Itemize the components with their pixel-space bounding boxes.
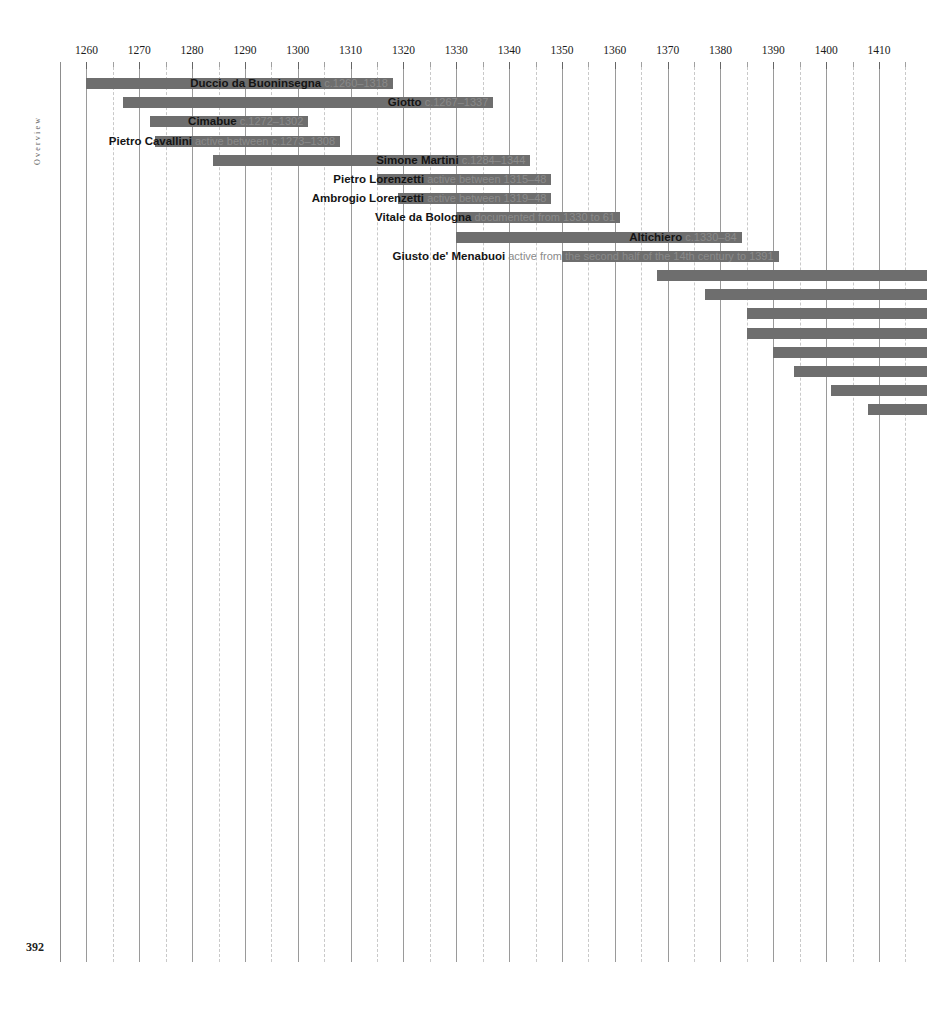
- timeline-bar-label: Duccio da Buoninsegna c.1260–1318: [190, 76, 393, 91]
- timeline-bar-row[interactable]: Pietro Lorenzetti active between 1315–48: [60, 172, 916, 188]
- artist-dates: documented from 1330 to 61: [471, 211, 615, 223]
- artist-dates: c.1330–84: [682, 231, 736, 243]
- artist-dates: active between 1315–48: [424, 173, 546, 185]
- timeline-bar[interactable]: [747, 308, 927, 319]
- timeline-bar-row[interactable]: [60, 268, 916, 284]
- artist-name: Altichiero: [629, 231, 682, 243]
- timeline-bar-row[interactable]: [60, 326, 916, 342]
- timeline-bar-row[interactable]: [60, 402, 916, 418]
- timeline-bar[interactable]: [657, 270, 926, 281]
- artist-name: Vitale da Bologna: [375, 211, 471, 223]
- artist-name: Simone Martini: [376, 154, 458, 166]
- timeline-bar-label: Simone Martini c.1284–1344: [376, 153, 530, 168]
- artist-name: Pietro Lorenzetti: [333, 173, 424, 185]
- artist-dates: c.1267–1337: [422, 96, 489, 108]
- timeline-bar-row[interactable]: [60, 364, 916, 380]
- timeline-bar-label: Vitale da Bologna documented from 1330 t…: [375, 210, 620, 225]
- timeline-bar-row[interactable]: Pietro Cavallini active between c.1273–1…: [60, 134, 916, 150]
- artist-dates: c.1284–1344: [459, 154, 526, 166]
- artist-dates: c.1272–1302: [237, 115, 304, 127]
- timeline-bar-row[interactable]: Duccio da Buoninsegna c.1260–1318: [60, 76, 916, 92]
- timeline-bar-row[interactable]: Altichiero c.1330–84: [60, 230, 916, 246]
- timeline-bar-row[interactable]: [60, 306, 916, 322]
- artist-name: Cimabue: [188, 115, 237, 127]
- timeline-bar-label: Pietro Lorenzetti active between 1315–48: [333, 172, 551, 187]
- timeline-bar-label: Giusto de' Menabuoi active from the seco…: [393, 249, 779, 264]
- timeline-bar[interactable]: [868, 404, 926, 415]
- timeline-bar[interactable]: [747, 328, 927, 339]
- timeline-bar-label: Giotto c.1267–1337: [388, 95, 494, 110]
- timeline-bar-row[interactable]: Ambrogio Lorenzetti active between 1319–…: [60, 191, 916, 207]
- timeline-bar-row[interactable]: Vitale da Bologna documented from 1330 t…: [60, 210, 916, 226]
- artist-dates: active between c.1273–1308: [192, 135, 335, 147]
- section-label: Overview: [33, 45, 47, 165]
- artist-dates: active from the second half of the 14th …: [505, 250, 773, 262]
- artist-name: Ambrogio Lorenzetti: [312, 192, 424, 204]
- timeline-bar-row[interactable]: [60, 287, 916, 303]
- artist-name: Giotto: [388, 96, 422, 108]
- timeline-bar-label: Altichiero c.1330–84: [629, 230, 741, 245]
- timeline-bar-label: Pietro Cavallini active between c.1273–1…: [109, 134, 340, 149]
- timeline-bar[interactable]: [831, 385, 926, 396]
- timeline-bar-row[interactable]: [60, 345, 916, 361]
- timeline-chart: 1260127012801290130013101320133013401350…: [60, 44, 916, 962]
- timeline-bar-row[interactable]: Simone Martini c.1284–1344: [60, 153, 916, 169]
- page-number: 392: [26, 940, 44, 955]
- timeline-bar[interactable]: [794, 366, 926, 377]
- artist-name: Giusto de' Menabuoi: [393, 250, 506, 262]
- bar-series: Duccio da Buoninsegna c.1260–1318Giotto …: [60, 44, 916, 962]
- timeline-bar-row[interactable]: Giotto c.1267–1337: [60, 95, 916, 111]
- artist-name: Duccio da Buoninsegna: [190, 77, 321, 89]
- timeline-bar-row[interactable]: Giusto de' Menabuoi active from the seco…: [60, 249, 916, 265]
- timeline-bar-label: Cimabue c.1272–1302: [188, 114, 308, 129]
- timeline-bar[interactable]: [773, 347, 926, 358]
- timeline-bar-row[interactable]: Cimabue c.1272–1302: [60, 114, 916, 130]
- timeline-bar-row[interactable]: [60, 383, 916, 399]
- timeline-bar[interactable]: [705, 289, 927, 300]
- artist-dates: active between 1319–48: [424, 192, 546, 204]
- artist-name: Pietro Cavallini: [109, 135, 192, 147]
- artist-dates: c.1260–1318: [321, 77, 388, 89]
- timeline-bar-label: Ambrogio Lorenzetti active between 1319–…: [312, 191, 552, 206]
